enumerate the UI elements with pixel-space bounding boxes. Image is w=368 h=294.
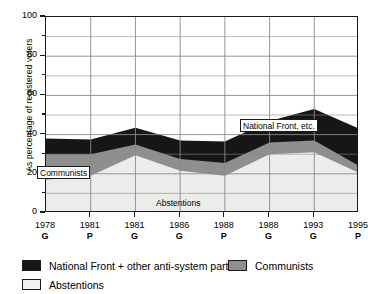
y-tick-label: 20	[11, 168, 37, 177]
x-tick-election-type: G	[111, 231, 157, 242]
x-tick-year: 1988	[201, 220, 247, 231]
y-tick-label: 100	[11, 11, 37, 20]
x-tick-label: 1981G	[111, 220, 157, 243]
plot-area	[45, 16, 358, 212]
annotation-communists: Communists	[37, 166, 90, 179]
x-tick-election-type: P	[67, 231, 113, 242]
legend-label-abstentions: Abstentions	[49, 279, 104, 291]
x-tick-year: 1986	[156, 220, 202, 231]
legend-swatch-communists	[228, 260, 247, 271]
x-tick-year: 1981	[67, 220, 113, 231]
legend-item-communists: Communists	[228, 256, 313, 275]
legend: National Front + other anti-system parti…	[22, 256, 362, 294]
x-tick-label: 1981P	[67, 220, 113, 243]
legend-label-national-front: National Front + other anti-system parti…	[49, 260, 242, 272]
legend-item-abstentions: Abstentions	[22, 275, 104, 294]
x-tick-label: 1986G	[156, 220, 202, 243]
x-tick-label: 1995P	[335, 220, 368, 243]
x-tick-mark	[223, 212, 224, 217]
x-tick-election-type: P	[335, 231, 368, 242]
x-tick-year: 1995	[335, 220, 368, 231]
legend-label-communists: Communists	[255, 260, 313, 272]
x-tick-election-type: P	[201, 231, 247, 242]
y-tick-label: 40	[11, 129, 37, 138]
legend-row-1: National Front + other anti-system parti…	[22, 256, 362, 275]
x-tick-label: 1988P	[201, 220, 247, 243]
x-tick-mark	[89, 212, 90, 217]
legend-row-2: Abstentions	[22, 275, 362, 294]
x-tick-label: 1993G	[290, 220, 336, 243]
x-tick-label: 1978G	[22, 220, 68, 243]
annotation-abstentions: Abstentions	[156, 198, 200, 208]
x-tick-election-type: G	[156, 231, 202, 242]
x-tick-mark	[268, 212, 269, 217]
x-tick-election-type: G	[22, 231, 68, 242]
y-tick-label: 80	[11, 50, 37, 59]
chart-figure: As percentage of registered voters 02040…	[0, 0, 368, 294]
legend-swatch-national-front	[22, 260, 41, 271]
x-tick-year: 1981	[111, 220, 157, 231]
x-tick-year: 1993	[290, 220, 336, 231]
legend-item-national-front: National Front + other anti-system parti…	[22, 256, 242, 275]
x-tick-mark	[313, 212, 314, 217]
stacked-area-plot	[46, 17, 358, 212]
x-tick-label: 1988G	[246, 220, 292, 243]
x-tick-mark	[134, 212, 135, 217]
y-tick-label: 60	[11, 89, 37, 98]
y-tick-label: 0	[11, 207, 37, 216]
legend-swatch-abstentions	[22, 279, 41, 290]
x-tick-mark	[179, 212, 180, 217]
x-tick-election-type: G	[246, 231, 292, 242]
x-tick-year: 1978	[22, 220, 68, 231]
x-tick-year: 1988	[246, 220, 292, 231]
x-tick-election-type: G	[290, 231, 336, 242]
annotation-national-front: National Front, etc.	[240, 119, 318, 132]
